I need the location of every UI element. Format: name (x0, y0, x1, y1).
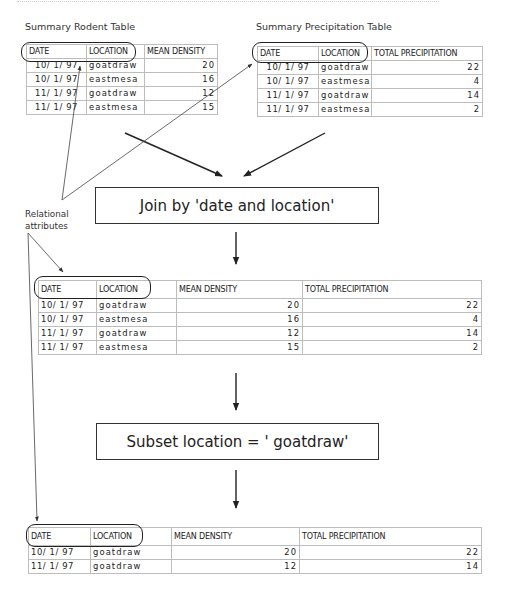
header-date: DATE (27, 45, 87, 59)
header-total-precipitation: TOTAL PRECIPITATION (303, 281, 482, 299)
table-row: 11/ 1/ 97 eastmesa 15 2 (39, 341, 482, 355)
cell-date: 10/ 1/ 97 (27, 59, 87, 73)
header-location: LOCATION (97, 281, 177, 299)
header-location: LOCATION (87, 45, 145, 59)
cell-mean-density: 15 (145, 101, 218, 115)
cell-location: goatdraw (97, 299, 177, 313)
cell-location: eastmesa (97, 341, 177, 355)
table-row: 10/ 1/ 97 goatdraw 20 22 (39, 299, 482, 313)
cell-mean-density: 15 (177, 341, 303, 355)
table-header-row: DATE LOCATION TOTAL PRECIPITATION (258, 47, 483, 61)
cell-date: 11/ 1/ 97 (29, 560, 91, 574)
header-mean-density: MEAN DENSITY (172, 528, 300, 546)
cell-location: goatdraw (87, 59, 145, 73)
cell-mean-density: 12 (177, 327, 303, 341)
cell-date: 11/ 1/ 97 (258, 103, 319, 117)
result-table: DATE LOCATION MEAN DENSITY TOTAL PRECIPI… (28, 527, 482, 574)
table-row: 10/ 1/ 97 goatdraw 20 (27, 59, 218, 73)
cell-location: eastmesa (87, 73, 145, 87)
cell-total-precipitation: 22 (372, 61, 483, 75)
cell-total-precipitation: 22 (303, 299, 482, 313)
cell-total-precipitation: 4 (303, 313, 482, 327)
cell-mean-density: 12 (172, 560, 300, 574)
cell-mean-density: 20 (177, 299, 303, 313)
relational-attributes-note: Relational attributes (25, 208, 69, 232)
table-header-row: DATE LOCATION MEAN DENSITY TOTAL PRECIPI… (39, 281, 482, 299)
top-divider (17, 1, 439, 2)
cell-total-precipitation: 2 (303, 341, 482, 355)
table-row: 10/ 1/ 97 eastmesa 16 4 (39, 313, 482, 327)
table-row: 10/ 1/ 97 goatdraw 20 22 (29, 546, 482, 560)
cell-location: eastmesa (319, 103, 372, 117)
table-header-row: DATE LOCATION MEAN DENSITY TOTAL PRECIPI… (29, 528, 482, 546)
header-location: LOCATION (91, 528, 172, 546)
header-mean-density: MEAN DENSITY (177, 281, 303, 299)
table-row: 10/ 1/ 97 eastmesa 4 (258, 75, 483, 89)
note-line-2: attributes (25, 220, 69, 232)
cell-mean-density: 16 (145, 73, 218, 87)
header-date: DATE (39, 281, 97, 299)
table-row: 10/ 1/ 97 goatdraw 22 (258, 61, 483, 75)
cell-location: goatdraw (87, 87, 145, 101)
cell-date: 11/ 1/ 97 (39, 341, 97, 355)
header-date: DATE (29, 528, 91, 546)
leader-to-joined-table (28, 233, 63, 272)
table-row: 11/ 1/ 97 goatdraw 12 14 (39, 327, 482, 341)
table-header-row: DATE LOCATION MEAN DENSITY (27, 45, 218, 59)
cell-location: goatdraw (91, 546, 172, 560)
table-row: 11/ 1/ 97 eastmesa 2 (258, 103, 483, 117)
subset-step-box: Subset location = ' goatdraw' (96, 423, 379, 460)
cell-date: 11/ 1/ 97 (39, 327, 97, 341)
cell-total-precipitation: 14 (300, 560, 482, 574)
rodent-table: DATE LOCATION MEAN DENSITY 10/ 1/ 97 goa… (26, 44, 218, 115)
cell-location: goatdraw (97, 327, 177, 341)
leader-to-result-table (28, 233, 37, 521)
cell-date: 11/ 1/ 97 (27, 87, 87, 101)
table-row: 10/ 1/ 97 eastmesa 16 (27, 73, 218, 87)
header-location: LOCATION (319, 47, 372, 61)
precipitation-table: DATE LOCATION TOTAL PRECIPITATION 10/ 1/… (257, 46, 483, 117)
subset-step-label: Subset location = ' goatdraw' (127, 433, 349, 451)
cell-location: goatdraw (319, 61, 372, 75)
table-row: 11/ 1/ 97 goatdraw 12 14 (29, 560, 482, 574)
cell-date: 11/ 1/ 97 (258, 89, 319, 103)
cell-total-precipitation: 14 (303, 327, 482, 341)
table-row: 11/ 1/ 97 goatdraw 12 (27, 87, 218, 101)
cell-date: 10/ 1/ 97 (39, 299, 97, 313)
joined-table: DATE LOCATION MEAN DENSITY TOTAL PRECIPI… (38, 280, 482, 355)
cell-date: 10/ 1/ 97 (39, 313, 97, 327)
cell-total-precipitation: 2 (372, 103, 483, 117)
cell-date: 10/ 1/ 97 (258, 75, 319, 89)
table-row: 11/ 1/ 97 eastmesa 15 (27, 101, 218, 115)
cell-location: eastmesa (319, 75, 372, 89)
table-row: 11/ 1/ 97 goatdraw 14 (258, 89, 483, 103)
join-step-box: Join by 'date and location' (95, 187, 379, 224)
arrow-precip-to-join (244, 133, 325, 176)
header-total-precipitation: TOTAL PRECIPITATION (372, 47, 483, 61)
cell-location: eastmesa (97, 313, 177, 327)
header-mean-density: MEAN DENSITY (145, 45, 218, 59)
header-total-precipitation: TOTAL PRECIPITATION (300, 528, 482, 546)
cell-mean-density: 20 (145, 59, 218, 73)
cell-mean-density: 20 (172, 546, 300, 560)
arrow-rodent-to-join (125, 133, 222, 176)
header-date: DATE (258, 47, 319, 61)
cell-date: 10/ 1/ 97 (27, 73, 87, 87)
precip-table-caption: Summary Precipitation Table (256, 21, 392, 32)
cell-location: goatdraw (91, 560, 172, 574)
cell-mean-density: 16 (177, 313, 303, 327)
cell-total-precipitation: 14 (372, 89, 483, 103)
note-line-1: Relational (25, 208, 69, 220)
rodent-table-caption: Summary Rodent Table (25, 21, 135, 32)
cell-date: 10/ 1/ 97 (29, 546, 91, 560)
cell-mean-density: 12 (145, 87, 218, 101)
cell-location: goatdraw (319, 89, 372, 103)
join-step-label: Join by 'date and location' (140, 197, 335, 215)
cell-total-precipitation: 22 (300, 546, 482, 560)
cell-total-precipitation: 4 (372, 75, 483, 89)
cell-date: 10/ 1/ 97 (258, 61, 319, 75)
cell-date: 11/ 1/ 97 (27, 101, 87, 115)
cell-location: eastmesa (87, 101, 145, 115)
